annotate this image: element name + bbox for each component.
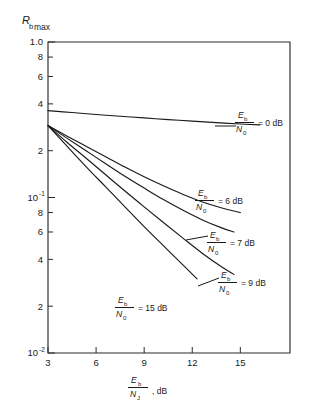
annotation-denominator-sub: 0: [123, 315, 127, 321]
annotation-denominator-sub: 0: [215, 250, 219, 256]
annotation-numerator-sub: b: [124, 301, 128, 307]
y-tick-label: 8: [38, 207, 43, 218]
y-axis-title-sub-max: max: [34, 22, 51, 32]
annotation-denominator: N: [196, 202, 203, 212]
curve-eb-n0-0-db: [48, 111, 260, 125]
y-tick-label: 6: [38, 71, 43, 82]
x-axis-title: E b N J , dB: [128, 375, 167, 401]
annotation-denominator-sub: 0: [243, 130, 247, 136]
curve-annotations: EbN0= 0 dBEbN0= 6 dBEbN0= 7 dBEbN0= 9 dB…: [115, 110, 283, 321]
data-curves: [48, 111, 260, 279]
annotation-numerator-sub: b: [244, 116, 248, 122]
y-tick-label: 10: [27, 192, 38, 203]
annotation-a6: EbN0= 6 dB: [195, 188, 243, 214]
x-tick-label: 12: [187, 357, 198, 368]
chart-figure: 1.0864210-1864210-2 3691215 R b max E b …: [0, 0, 311, 420]
x-tick-label: 9: [142, 357, 147, 368]
y-axis-tick-labels: 1.0864210-1864210-2: [27, 36, 45, 358]
annotation-denominator: N: [208, 244, 215, 254]
x-axis-title-numerator: E: [131, 375, 137, 385]
y-tick-label: 1.0: [30, 36, 43, 47]
annotation-denominator-sub: 0: [203, 208, 207, 214]
annotation-denominator-sub: 0: [226, 290, 230, 296]
x-axis-ticks: [48, 347, 240, 353]
curve-eb-n0-6-db: [48, 126, 240, 213]
annotation-leader-line: [198, 278, 219, 286]
annotation-value: = 6 dB: [218, 196, 243, 206]
x-tick-label: 6: [93, 357, 98, 368]
x-tick-label: 3: [45, 357, 50, 368]
annotation-denominator: N: [219, 284, 226, 294]
annotation-a15: EbN0= 15 dB: [115, 295, 168, 321]
annotation-denominator: N: [236, 124, 243, 134]
x-axis-title-unit: , dB: [152, 386, 167, 396]
annotation-value: = 9 dB: [241, 278, 266, 288]
annotation-value: = 15 dB: [138, 303, 168, 313]
x-axis-tick-labels: 3691215: [45, 357, 245, 368]
y-axis-title-sub-b: b: [29, 22, 33, 31]
curve-eb-n0-7-db: [48, 126, 234, 232]
annotation-a7: EbN0= 7 dB: [186, 230, 255, 256]
annotation-numerator-sub: b: [204, 194, 208, 200]
y-tick-label: 8: [38, 51, 43, 62]
annotation-numerator-sub: b: [227, 276, 231, 282]
y-tick-label: 2: [38, 301, 43, 312]
y-tick-exponent: -2: [39, 346, 45, 353]
curve-eb-n0-15-db: [48, 126, 197, 279]
y-tick-label: 2: [38, 145, 43, 156]
y-tick-label: 10: [27, 347, 38, 358]
plot-frame: [48, 42, 290, 353]
y-tick-label: 4: [38, 98, 43, 109]
log-linear-plot: 1.0864210-1864210-2 3691215 R b max E b …: [0, 0, 311, 420]
annotation-value: = 7 dB: [230, 238, 255, 248]
x-axis-title-denominator: N: [130, 389, 137, 399]
y-tick-label: 6: [38, 226, 43, 237]
annotation-denominator: N: [116, 309, 123, 319]
x-tick-label: 15: [235, 357, 246, 368]
y-axis-ticks: [48, 42, 55, 353]
annotation-value: = 0 dB: [258, 118, 283, 128]
annotation-leader-line: [186, 236, 208, 240]
x-axis-title-numerator-sub: b: [138, 381, 142, 387]
x-axis-title-denominator-sub: J: [137, 395, 140, 401]
y-axis-title: R b max: [22, 14, 51, 32]
y-tick-label: 4: [38, 254, 43, 265]
annotation-numerator-sub: b: [216, 236, 220, 242]
y-tick-exponent: -1: [39, 190, 45, 197]
